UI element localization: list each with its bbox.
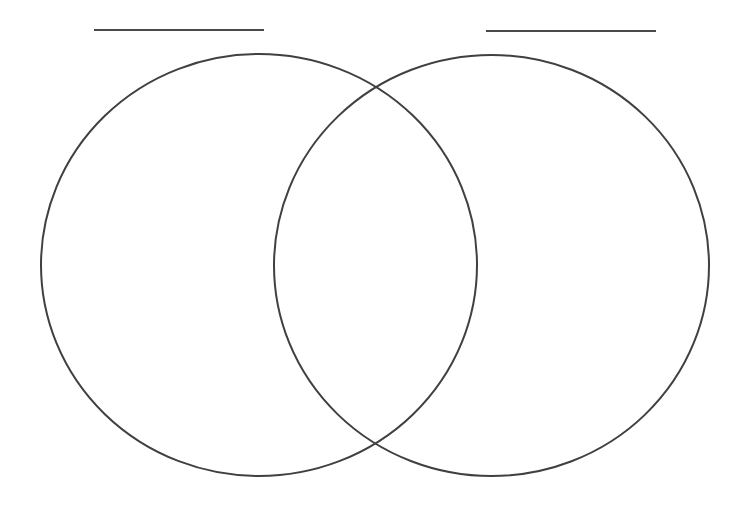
left-set-circle xyxy=(41,54,477,476)
venn-circles xyxy=(0,0,746,509)
venn-diagram xyxy=(0,0,746,509)
right-set-circle xyxy=(274,55,709,476)
